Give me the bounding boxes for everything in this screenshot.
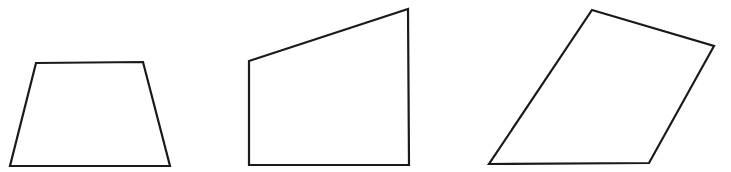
irregular-quadrilateral-shape <box>489 10 714 164</box>
trapezoid-shape <box>10 62 170 166</box>
shapes-figure <box>0 0 731 172</box>
right-trapezoid-shape <box>249 9 409 165</box>
